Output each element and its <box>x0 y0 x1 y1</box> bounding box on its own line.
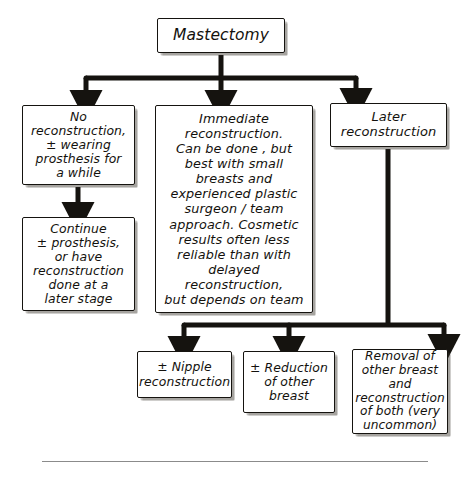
node-no-reconstruction-label: No reconstruction, ± wearing prosthesis … <box>28 109 129 181</box>
node-nipple-reconstruction-label: ± Nipple reconstruction <box>136 359 233 389</box>
node-continue-prosthesis[interactable]: Continue ± prosthesis, or have reconstru… <box>22 217 135 311</box>
node-continue-prosthesis-label: Continue ± prosthesis, or have reconstru… <box>30 221 127 307</box>
node-later-reconstruction[interactable]: Later reconstruction <box>330 103 447 147</box>
node-reduction-other-breast-label: ± Reduction of other breast <box>247 360 331 404</box>
node-no-reconstruction[interactable]: No reconstruction, ± wearing prosthesis … <box>22 105 135 185</box>
node-immediate-reconstruction[interactable]: Immediate reconstruction. Can be done , … <box>155 105 313 313</box>
node-mastectomy[interactable]: Mastectomy <box>157 18 285 53</box>
edge-mastectomy-branch <box>84 55 359 96</box>
node-later-reconstruction-label: Later reconstruction <box>338 109 440 140</box>
node-removal-other-breast[interactable]: Removal of other breast and reconstructi… <box>352 349 448 434</box>
node-mastectomy-label: Mastectomy <box>170 26 272 46</box>
node-removal-other-breast-label: Removal of other breast and reconstructi… <box>352 349 448 434</box>
node-immediate-reconstruction-label: Immediate reconstruction. Can be done , … <box>156 110 312 308</box>
node-nipple-reconstruction[interactable]: ± Nipple reconstruction <box>137 351 232 398</box>
flowchart-diagram: Mastectomy No reconstruction, ± wearing … <box>0 0 470 480</box>
node-reduction-other-breast[interactable]: ± Reduction of other breast <box>243 351 335 413</box>
